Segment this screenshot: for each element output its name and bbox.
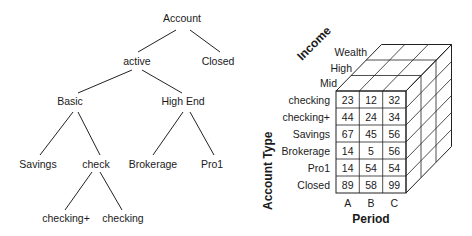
row-label-savings: Savings (293, 128, 330, 140)
column-label-a: A (344, 197, 351, 209)
axis-title-account-type: Account Type (261, 131, 275, 210)
column-labels: A B C (344, 197, 398, 209)
cell-r4-c1: 54 (365, 162, 377, 174)
tree-node-closed: Closed (202, 55, 235, 67)
cell-r5-c0: 89 (342, 179, 354, 191)
tree-node-active: active (123, 55, 151, 67)
income-label-high: High (330, 62, 352, 74)
axis-title-income: Income (294, 23, 334, 63)
column-label-c: C (391, 197, 399, 209)
tree-node-check: check (82, 158, 110, 170)
tree-node-pro1: Pro1 (201, 158, 223, 170)
tree-node-checking: checking (102, 212, 144, 224)
cell-r0-c0: 23 (342, 94, 354, 106)
row-label-closed: Closed (297, 179, 330, 191)
tree-node-brokerage: Brokerage (129, 158, 178, 170)
cell-r2-c1: 45 (365, 128, 377, 140)
cell-r2-c2: 56 (388, 128, 400, 140)
diagram-canvas: Account active Closed Basic High End Sav… (0, 0, 472, 236)
cell-r5-c2: 99 (388, 179, 400, 191)
cell-r3-c0: 14 (342, 145, 354, 157)
cell-r0-c2: 32 (388, 94, 400, 106)
row-label-checking: checking (289, 94, 331, 106)
cell-r1-c1: 24 (365, 111, 377, 123)
row-labels: checking checking+ Savings Brokerage Pro… (282, 94, 331, 191)
cell-r4-c2: 54 (388, 162, 400, 174)
cell-r1-c0: 44 (342, 111, 354, 123)
axis-title-period: Period (352, 212, 389, 226)
cell-r0-c1: 12 (365, 94, 377, 106)
tree-node-high-end: High End (161, 95, 204, 107)
row-label-checking-plus: checking+ (282, 111, 330, 123)
cell-r5-c1: 58 (365, 179, 377, 191)
income-label-mid: Mid (320, 77, 337, 89)
column-label-b: B (367, 197, 374, 209)
tree-node-savings: Savings (19, 158, 56, 170)
income-label-wealth: Wealth (335, 46, 368, 58)
cell-r3-c2: 56 (388, 145, 400, 157)
tree-node-basic: Basic (57, 95, 83, 107)
cell-r1-c2: 34 (388, 111, 400, 123)
cell-r2-c0: 67 (342, 128, 354, 140)
tree-node-checking-plus: checking+ (42, 212, 90, 224)
tree-nodes: Account active Closed Basic High End Sav… (19, 12, 234, 224)
cell-r3-c1: 5 (368, 145, 374, 157)
row-label-pro1: Pro1 (308, 162, 330, 174)
row-label-brokerage: Brokerage (282, 145, 331, 157)
cell-r4-c0: 14 (342, 162, 354, 174)
tree-node-account: Account (163, 12, 201, 24)
